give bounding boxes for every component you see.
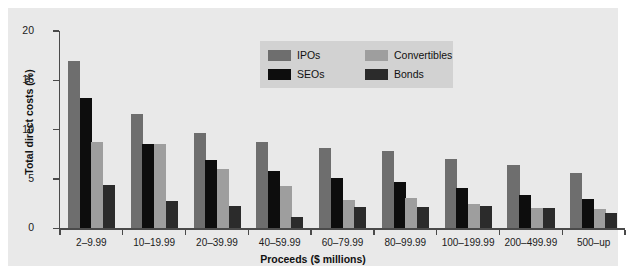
x-tick-mark (373, 230, 374, 235)
bar-seos-8 (582, 199, 594, 229)
x-tick-mark (499, 230, 500, 235)
bar-seos-0 (80, 98, 92, 228)
chart-panel: Total direct costs (%) 05101520 2–9.9910… (8, 8, 618, 266)
x-tick-mark (562, 230, 563, 235)
legend-label: IPOs (297, 49, 320, 62)
bar-seos-5 (394, 182, 406, 228)
bar-ipos-6 (445, 159, 457, 228)
legend-label: Bonds (394, 68, 424, 81)
bar-ipos-4 (319, 148, 331, 228)
legend-swatch-icon (365, 50, 388, 61)
legend-label: SEOs (297, 68, 324, 81)
x-tick-mark (122, 230, 123, 235)
bar-convertibles-7 (531, 208, 543, 229)
bar-bonds-0 (103, 185, 115, 228)
y-tick-label: 0 (0, 222, 34, 233)
bar-bonds-3 (291, 217, 303, 229)
bar-seos-1 (142, 144, 154, 229)
bar-bonds-8 (605, 213, 617, 229)
y-tick-label: 10 (0, 124, 34, 135)
legend-swatch-icon (365, 69, 388, 80)
legend-swatch-icon (268, 50, 291, 61)
x-tick-label: 500–up (549, 237, 626, 248)
x-tick-mark (624, 230, 625, 235)
chart-legend: IPOsSEOsConvertiblesBonds (260, 41, 453, 88)
x-tick-mark (436, 230, 437, 235)
y-tick-mark (53, 129, 59, 130)
bar-convertibles-4 (343, 200, 355, 229)
bar-bonds-7 (543, 208, 555, 229)
bar-ipos-7 (507, 165, 519, 228)
x-tick-mark (59, 230, 60, 235)
y-tick-mark (53, 228, 59, 229)
bar-convertibles-1 (154, 144, 166, 229)
x-axis-label: Proceeds ($ millions) (8, 253, 618, 265)
bar-ipos-8 (570, 173, 582, 228)
bar-seos-7 (519, 195, 531, 229)
bar-bonds-6 (480, 206, 492, 229)
x-tick-mark (185, 230, 186, 235)
bar-convertibles-5 (405, 198, 417, 229)
y-tick-label: 20 (0, 25, 34, 36)
bar-seos-4 (331, 178, 343, 228)
bar-convertibles-2 (217, 169, 229, 228)
bar-bonds-5 (417, 207, 429, 229)
legend-swatch-icon (268, 69, 291, 80)
legend-label: Convertibles (394, 49, 452, 62)
bar-convertibles-8 (594, 209, 606, 229)
bar-ipos-1 (131, 114, 143, 228)
bar-ipos-5 (382, 151, 394, 228)
bar-convertibles-6 (468, 204, 480, 229)
bar-ipos-2 (194, 133, 206, 229)
y-tick-mark (53, 178, 59, 179)
bar-seos-6 (456, 188, 468, 228)
y-tick-label: 15 (0, 74, 34, 85)
bar-ipos-3 (256, 142, 268, 229)
y-tick-mark (53, 30, 59, 31)
bar-ipos-0 (68, 61, 80, 229)
bar-bonds-4 (354, 207, 366, 229)
bar-convertibles-0 (91, 142, 103, 229)
chart-figure: Total direct costs (%) 05101520 2–9.9910… (0, 0, 626, 275)
x-tick-mark (310, 230, 311, 235)
y-tick-label: 5 (0, 173, 34, 184)
bar-seos-2 (205, 160, 217, 228)
bar-bonds-2 (229, 206, 241, 229)
x-tick-mark (248, 230, 249, 235)
bar-convertibles-3 (280, 186, 292, 228)
x-axis-line (59, 228, 625, 229)
bar-seos-3 (268, 171, 280, 228)
bar-bonds-1 (166, 201, 178, 229)
y-tick-mark (53, 80, 59, 81)
